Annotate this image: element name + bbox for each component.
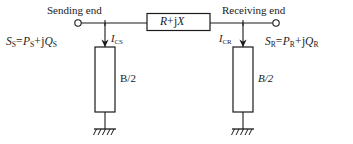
circuit-diagram-canvas: Sending end Receiving end SS=PS+jQS ICS … bbox=[0, 0, 353, 144]
receiving-end-label: Receiving end bbox=[222, 5, 285, 16]
receiving-plus: + bbox=[295, 35, 302, 47]
receiving-end-terminal-node bbox=[273, 20, 279, 26]
sending-end-label: Sending end bbox=[47, 5, 102, 16]
sending-end-terminal-node bbox=[75, 20, 81, 26]
receiving-equals: = bbox=[276, 35, 283, 47]
sending-ground-hatching bbox=[94, 129, 115, 135]
receiving-shunt-susceptance-box bbox=[233, 47, 253, 112]
sending-p-symbol: P bbox=[23, 35, 30, 47]
sending-complex-power-label: SS=PS+jQS bbox=[6, 36, 57, 48]
series-r-symbol: R bbox=[160, 15, 167, 27]
series-x-symbol: X bbox=[177, 15, 184, 27]
receiving-current-subscript: CR bbox=[223, 38, 232, 45]
receiving-q-subscript: R bbox=[313, 40, 318, 49]
receiving-ground-hatching bbox=[232, 129, 253, 135]
sending-current-subscript: CS bbox=[115, 38, 123, 45]
series-impedance-label: R+jX bbox=[160, 16, 184, 28]
sending-shunt-susceptance-label: B/2 bbox=[120, 73, 136, 84]
receiving-shunt-current-label: ICR bbox=[219, 34, 232, 45]
sending-shunt-susceptance-box bbox=[95, 47, 115, 112]
sending-q-symbol: Q bbox=[44, 35, 52, 47]
sending-q-subscript: S bbox=[53, 40, 57, 49]
receiving-shunt-susceptance-label: B/2 bbox=[258, 73, 273, 84]
receiving-p-symbol: P bbox=[283, 35, 290, 47]
sending-equals: = bbox=[16, 35, 23, 47]
sending-shunt-current-label: ICS bbox=[111, 34, 123, 45]
series-plus: + bbox=[167, 15, 174, 27]
receiving-complex-power-label: SR=PR+jQR bbox=[265, 36, 318, 48]
